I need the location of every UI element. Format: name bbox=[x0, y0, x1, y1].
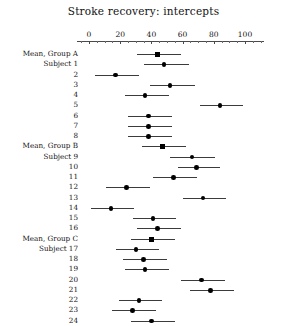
axis-tick-minor bbox=[136, 41, 137, 43]
subject-estimate-marker bbox=[162, 62, 167, 67]
confidence-interval-line bbox=[144, 64, 189, 65]
subject-estimate-marker bbox=[171, 175, 176, 180]
row-label: Mean, Group C bbox=[22, 235, 78, 243]
row-label: 6 bbox=[73, 112, 78, 120]
axis-tick-minor bbox=[159, 41, 160, 43]
subject-estimate-marker bbox=[113, 73, 118, 78]
axis-tick-label: 60 bbox=[178, 30, 188, 39]
axis-tick-minor bbox=[144, 41, 145, 43]
row-label: 22 bbox=[69, 296, 78, 304]
row-label: 12 bbox=[69, 183, 78, 191]
row-label: 2 bbox=[73, 71, 78, 79]
subject-estimate-marker bbox=[146, 124, 151, 129]
subject-estimate-marker bbox=[143, 267, 148, 272]
subject-estimate-marker bbox=[194, 165, 199, 170]
row-label: 5 bbox=[73, 101, 78, 109]
row-label: 7 bbox=[73, 122, 78, 130]
subject-estimate-marker bbox=[141, 257, 146, 262]
axis-tick-major bbox=[151, 41, 152, 44]
axis-tick-major bbox=[245, 41, 246, 44]
subject-estimate-marker bbox=[218, 103, 223, 108]
axis-tick-minor bbox=[229, 41, 230, 43]
row-label: 11 bbox=[69, 173, 78, 181]
subject-estimate-marker bbox=[151, 216, 156, 221]
subject-estimate-marker bbox=[146, 134, 151, 139]
subject-estimate-marker bbox=[130, 308, 135, 313]
axis-tick-minor bbox=[261, 41, 262, 43]
row-label: 3 bbox=[73, 81, 78, 89]
subject-estimate-marker bbox=[208, 288, 213, 293]
axis-tick-minor bbox=[175, 41, 176, 43]
subject-estimate-marker bbox=[168, 83, 173, 88]
subject-estimate-marker bbox=[155, 226, 160, 231]
axis-tick-minor bbox=[237, 41, 238, 43]
axis-tick-label: 0 bbox=[87, 30, 92, 39]
axis-tick-minor bbox=[206, 41, 207, 43]
row-label: 4 bbox=[73, 91, 78, 99]
confidence-interval-line bbox=[150, 85, 195, 86]
row-label: Mean, Group A bbox=[23, 50, 78, 58]
subject-estimate-marker bbox=[149, 319, 154, 324]
row-label: 20 bbox=[69, 276, 78, 284]
row-label: 14 bbox=[69, 204, 78, 212]
axis-tick-minor bbox=[81, 41, 82, 43]
forest-plot: Stroke recovery: intercepts 020406080100… bbox=[0, 0, 287, 326]
subject-estimate-marker bbox=[109, 206, 114, 211]
subject-estimate-marker bbox=[143, 93, 148, 98]
subject-estimate-marker bbox=[201, 196, 206, 201]
row-label: 18 bbox=[69, 255, 78, 263]
axis-tick-major bbox=[89, 41, 90, 44]
axis-tick-major bbox=[183, 41, 184, 44]
row-label: Subject 17 bbox=[39, 245, 78, 253]
row-label: Mean, Group B bbox=[23, 142, 78, 150]
axis-tick-label: 40 bbox=[147, 30, 157, 39]
row-label: 21 bbox=[69, 286, 78, 294]
row-label: 13 bbox=[69, 194, 78, 202]
subject-estimate-marker bbox=[137, 298, 142, 303]
subject-estimate-marker bbox=[190, 155, 195, 160]
mean-estimate-marker bbox=[160, 144, 165, 149]
chart-title: Stroke recovery: intercepts bbox=[0, 5, 287, 17]
row-label: 24 bbox=[69, 317, 78, 325]
row-label: 19 bbox=[69, 265, 78, 273]
axis-tick-minor bbox=[105, 41, 106, 43]
row-label: 10 bbox=[69, 163, 78, 171]
row-label: Subject 9 bbox=[44, 153, 78, 161]
confidence-interval-line bbox=[178, 167, 220, 168]
mean-estimate-marker bbox=[155, 52, 160, 57]
axis-tick-label: 20 bbox=[115, 30, 125, 39]
axis-tick-minor bbox=[190, 41, 191, 43]
axis-tick-minor bbox=[128, 41, 129, 43]
axis-tick-major bbox=[214, 41, 215, 44]
axis-tick-minor bbox=[198, 41, 199, 43]
axis-tick-major bbox=[120, 41, 121, 44]
axis-tick-label: 100 bbox=[238, 30, 252, 39]
axis-tick-minor bbox=[97, 41, 98, 43]
mean-estimate-marker bbox=[149, 237, 154, 242]
row-label: 15 bbox=[69, 214, 78, 222]
axis-tick-minor bbox=[222, 41, 223, 43]
axis-tick-minor bbox=[167, 41, 168, 43]
row-label: 16 bbox=[69, 224, 78, 232]
axis-tick-minor bbox=[112, 41, 113, 43]
subject-estimate-marker bbox=[124, 185, 129, 190]
row-label: 23 bbox=[69, 306, 78, 314]
row-label: 8 bbox=[73, 132, 78, 140]
axis-tick-minor bbox=[253, 41, 254, 43]
subject-estimate-marker bbox=[146, 114, 151, 119]
subject-estimate-marker bbox=[199, 278, 204, 283]
axis-tick-label: 80 bbox=[209, 30, 219, 39]
row-label: Subject 1 bbox=[44, 60, 78, 68]
subject-estimate-marker bbox=[134, 247, 139, 252]
